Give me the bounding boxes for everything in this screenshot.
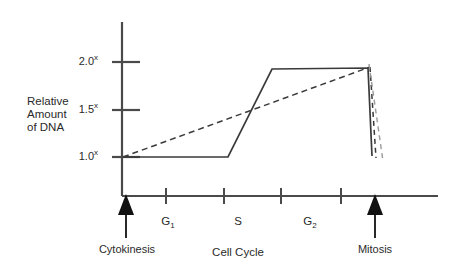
y-tick-label-1-0x: 1.0x <box>58 150 98 163</box>
y-axis-title-line-2: Amount <box>27 108 69 121</box>
y-axis-title: RelativeAmountof DNA <box>27 95 69 135</box>
y-axis-title-line-3: of DNA <box>27 121 69 134</box>
series-cell-mass-dashed <box>123 67 370 157</box>
y-axis-title-line-1: Relative <box>27 95 69 108</box>
x-phase-label-s: S <box>218 215 258 228</box>
event-label-mitosis: Mitosis <box>340 243 410 256</box>
x-axis-title: Cell Cycle <box>188 246 288 259</box>
cell-cycle-dna-chart: 2.0x 1.5x 1.0x RelativeAmountof DNA G1 S… <box>0 0 472 276</box>
event-label-cytokinesis: Cytokinesis <box>74 243 180 256</box>
series-dna-content-solid <box>123 68 372 157</box>
mitosis-arrow-icon <box>367 194 383 238</box>
y-tick-label-2-0x: 2.0x <box>58 55 98 68</box>
chart-plot-area <box>0 0 472 276</box>
x-phase-label-g1: G1 <box>148 215 188 228</box>
cytokinesis-arrow-icon <box>118 194 134 238</box>
x-phase-label-g2: G2 <box>290 215 330 228</box>
